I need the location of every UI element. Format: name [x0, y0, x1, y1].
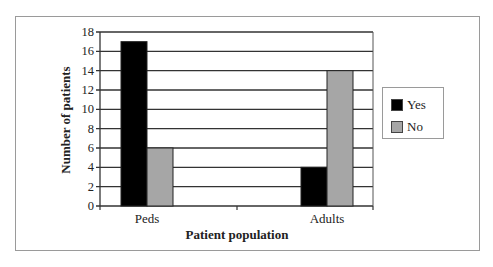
legend-label-no: No	[407, 119, 423, 135]
legend-item-yes: Yes	[391, 97, 426, 113]
legend-label-yes: Yes	[407, 97, 426, 113]
y-tick-label: 18	[64, 25, 94, 40]
bar-no-adults	[327, 71, 353, 206]
bar-no-peds	[147, 148, 173, 206]
y-tick-label: 2	[64, 179, 94, 194]
x-axis-label: Patient population	[186, 227, 289, 243]
legend: Yes No	[382, 87, 444, 139]
legend-item-no: No	[391, 119, 423, 135]
y-tick-label: 0	[64, 199, 94, 214]
bar-yes-peds	[121, 42, 147, 206]
legend-swatch-no	[391, 121, 403, 133]
y-tick-label: 16	[64, 44, 94, 59]
category-label-adults: Adults	[310, 211, 345, 227]
legend-swatch-yes	[391, 99, 403, 111]
bar-yes-adults	[301, 167, 327, 206]
y-axis-label: Number of patients	[58, 66, 74, 173]
category-label-peds: Peds	[135, 211, 160, 227]
